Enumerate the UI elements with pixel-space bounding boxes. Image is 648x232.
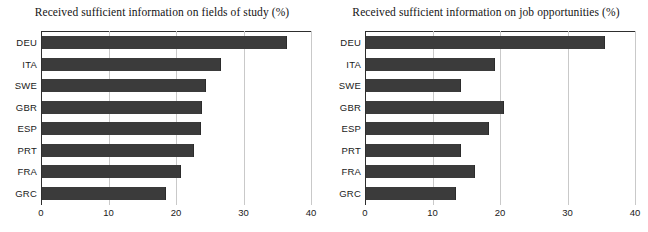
bar-row xyxy=(366,118,635,140)
bar-row xyxy=(366,97,635,119)
category-label-grc: GRC xyxy=(0,183,37,205)
bar-grc xyxy=(366,187,456,200)
category-label-ita: ITA xyxy=(0,54,37,76)
x-axis-tick-labels: 010203040 xyxy=(365,207,635,223)
chart-title: Received sufficient information on job o… xyxy=(324,6,648,18)
category-label-fra: FRA xyxy=(0,161,37,183)
figure-container: Received sufficient information on field… xyxy=(0,0,648,232)
x-tick-label: 0 xyxy=(38,207,43,218)
bar-row xyxy=(42,75,311,97)
chart-title: Received sufficient information on field… xyxy=(0,6,324,18)
gridline-40 xyxy=(635,31,636,205)
bar-ita xyxy=(42,58,221,71)
bar-row xyxy=(42,183,311,205)
x-tick-label: 30 xyxy=(562,207,573,218)
bar-row xyxy=(42,97,311,119)
chart-panel-job-opportunities: Received sufficient information on job o… xyxy=(324,0,648,232)
x-tick-label: 30 xyxy=(238,207,249,218)
bar-row xyxy=(42,161,311,183)
bar-row xyxy=(42,32,311,54)
bar-series xyxy=(366,32,635,204)
bar-series xyxy=(42,32,311,204)
category-label-prt: PRT xyxy=(0,140,37,162)
bar-row xyxy=(366,140,635,162)
bar-row xyxy=(366,161,635,183)
bar-esp xyxy=(42,122,201,135)
bar-fra xyxy=(42,165,181,178)
bar-prt xyxy=(42,144,194,157)
bar-gbr xyxy=(366,101,504,114)
bar-row xyxy=(366,183,635,205)
chart-panel-fields-of-study: Received sufficient information on field… xyxy=(0,0,324,232)
category-label-esp: ESP xyxy=(0,118,37,140)
category-label-gbr: GBR xyxy=(0,97,37,119)
bar-ita xyxy=(366,58,495,71)
x-tick-label: 20 xyxy=(171,207,182,218)
category-label-ita: ITA xyxy=(324,54,361,76)
bar-deu xyxy=(366,36,605,49)
gridline-40 xyxy=(311,31,312,205)
category-label-gbr: GBR xyxy=(324,97,361,119)
y-axis-category-labels: DEUITASWEGBRESPPRTFRAGRC xyxy=(324,32,361,204)
bar-row xyxy=(42,54,311,76)
x-tick-label: 10 xyxy=(427,207,438,218)
category-label-prt: PRT xyxy=(324,140,361,162)
category-label-fra: FRA xyxy=(324,161,361,183)
plot-area xyxy=(41,31,311,205)
x-tick-label: 0 xyxy=(362,207,367,218)
bar-row xyxy=(42,140,311,162)
category-label-deu: DEU xyxy=(324,32,361,54)
x-tick-label: 40 xyxy=(306,207,317,218)
bar-fra xyxy=(366,165,475,178)
x-tick-label: 20 xyxy=(495,207,506,218)
bar-deu xyxy=(42,36,287,49)
category-label-deu: DEU xyxy=(0,32,37,54)
y-axis-category-labels: DEUITASWEGBRESPPRTFRAGRC xyxy=(0,32,37,204)
category-label-esp: ESP xyxy=(324,118,361,140)
x-tick-label: 40 xyxy=(630,207,641,218)
plot-area xyxy=(365,31,635,205)
bar-gbr xyxy=(42,101,202,114)
category-label-swe: SWE xyxy=(324,75,361,97)
x-tick-label: 10 xyxy=(103,207,114,218)
bar-row xyxy=(366,75,635,97)
chart-panels: Received sufficient information on field… xyxy=(0,0,648,232)
bar-row xyxy=(42,118,311,140)
bar-swe xyxy=(366,79,461,92)
bar-row xyxy=(366,54,635,76)
category-label-grc: GRC xyxy=(324,183,361,205)
bar-esp xyxy=(366,122,489,135)
category-label-swe: SWE xyxy=(0,75,37,97)
x-axis-tick-labels: 010203040 xyxy=(41,207,311,223)
bar-row xyxy=(366,32,635,54)
bar-prt xyxy=(366,144,461,157)
bar-grc xyxy=(42,187,166,200)
bar-swe xyxy=(42,79,206,92)
